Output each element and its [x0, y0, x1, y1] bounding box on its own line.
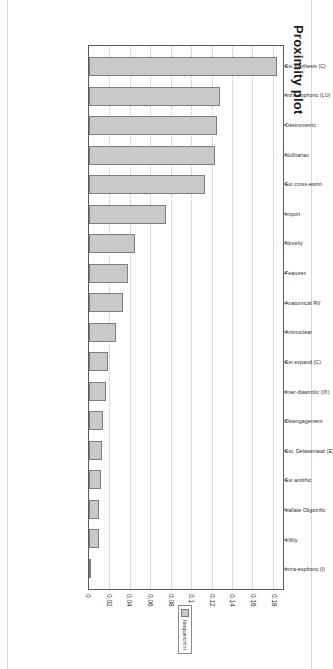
bar-slot: [89, 81, 283, 111]
bar-slot: [89, 258, 283, 288]
value-axis-tick: 0.02: [105, 594, 112, 607]
bar[interactable]: [89, 57, 277, 76]
bar-slot: [89, 465, 283, 495]
bar[interactable]: [89, 411, 103, 430]
category-axis-label: Est expand (C): [285, 358, 321, 364]
category-slot: Disengagement: [284, 406, 310, 436]
bar-slot: [89, 347, 283, 377]
bar[interactable]: [89, 263, 128, 282]
value-axis-tick: 0.1: [188, 594, 195, 603]
category-slot: Antinuclear: [284, 317, 310, 347]
bar-series: [89, 46, 283, 589]
category-slot: Inter-diastrolic (IX): [284, 376, 310, 406]
category-axis-label: Nullitarian: [285, 151, 309, 157]
category-slot: Intra-oophoric (LU): [284, 80, 310, 110]
value-axis-tick: 0.16: [250, 594, 257, 607]
category-axis-label: Anatomical RV: [285, 299, 321, 305]
bar[interactable]: [89, 470, 101, 489]
category-axis-label: Inter-diastrolic (IX): [285, 388, 329, 394]
bar[interactable]: [89, 529, 99, 548]
scanned-page: Proximity plot Est synthesis (C)Intra-oo…: [0, 0, 319, 669]
value-axis-tick: 0.18: [270, 594, 277, 607]
bar-slot: [89, 376, 283, 406]
chart-legend[interactable]: Isoquercitrin: [178, 605, 192, 654]
category-axis-label: Vallate Oligotrific: [285, 506, 325, 512]
bar[interactable]: [89, 322, 116, 341]
bar[interactable]: [89, 145, 215, 164]
bar-slot: [89, 170, 283, 200]
rotated-figure-stage: Proximity plot Est synthesis (C)Intra-oo…: [10, 15, 310, 655]
category-axis-label: Disengagement: [285, 418, 323, 424]
category-axis-label: Featurex: [285, 270, 306, 276]
category-slot: Featurex: [284, 258, 310, 288]
bar-slot: [89, 494, 283, 524]
bar-slot: [89, 524, 283, 554]
bar-slot: [89, 435, 283, 465]
bar[interactable]: [89, 116, 217, 135]
category-slot: Nullitarian: [284, 139, 310, 169]
bar[interactable]: [89, 352, 108, 371]
category-slot: Vallate Oligotrific: [284, 495, 310, 525]
bar[interactable]: [89, 86, 220, 105]
category-axis-label: Villity: [285, 536, 298, 542]
category-slot: Novelty: [284, 228, 310, 258]
proximity-plot-figure: Proximity plot Est synthesis (C)Intra-oo…: [10, 15, 310, 655]
bar[interactable]: [89, 293, 123, 312]
page-edge-left: [7, 0, 8, 669]
bar-slot: [89, 317, 283, 347]
value-axis-tick: 0.08: [167, 594, 174, 607]
category-axis-label: Est synthesis (C): [285, 62, 326, 68]
bar-slot: [89, 406, 283, 436]
category-slot: Intra-eophoric (I): [284, 554, 310, 584]
bar-slot: [89, 140, 283, 170]
bar[interactable]: [89, 381, 106, 400]
bar[interactable]: [89, 204, 166, 223]
bar-slot: [89, 111, 283, 141]
category-slot: Est synthesis (C): [284, 51, 310, 81]
bar[interactable]: [89, 175, 205, 194]
bar[interactable]: [89, 499, 99, 518]
bar[interactable]: [89, 558, 91, 577]
category-slot: Villity: [284, 524, 310, 554]
bar-slot: [89, 288, 283, 318]
value-axis-tick: 0.04: [126, 594, 133, 607]
category-axis-label: Intra-oophoric (LU): [285, 92, 330, 98]
series-swatch-icon: [181, 609, 189, 617]
category-axis-label: Est. Delaserratal (E): [285, 447, 333, 453]
category-axis-label: Est antithic: [285, 477, 312, 483]
bar[interactable]: [89, 440, 102, 459]
bar[interactable]: [89, 234, 135, 253]
category-axis-label: Oestrometric: [285, 122, 316, 128]
category-axis-label: Novelty: [285, 240, 303, 246]
category-slot: Import: [284, 199, 310, 229]
category-slot: Oestrometric: [284, 110, 310, 140]
plot-area: [88, 45, 284, 590]
category-axis-label: Import: [285, 210, 300, 216]
category-axis-label: Intra-eophoric (I): [285, 566, 325, 572]
category-slot: Anatomical RV: [284, 287, 310, 317]
category-axis-label: Antinuclear: [285, 329, 312, 335]
value-axis-tick: 0: [85, 594, 92, 598]
bar-slot: [89, 229, 283, 259]
category-slot: Est cross-estrin: [284, 169, 310, 199]
value-axis-tick: 0.14: [229, 594, 236, 607]
bar-slot: [89, 553, 283, 583]
bar-slot: [89, 52, 283, 82]
category-axis-label: Est cross-estrin: [285, 181, 322, 187]
category-slot: Est expand (C): [284, 347, 310, 377]
value-axis-tick: 0.06: [146, 594, 153, 607]
category-axis-labels: Est synthesis (C)Intra-oophoric (LU)Oest…: [284, 45, 310, 590]
category-slot: Est. Delaserratal (E): [284, 435, 310, 465]
category-slot: Est antithic: [284, 465, 310, 495]
value-axis-tick: 0.12: [208, 594, 215, 607]
bar-slot: [89, 199, 283, 229]
legend-label: Isoquercitrin: [182, 620, 188, 650]
